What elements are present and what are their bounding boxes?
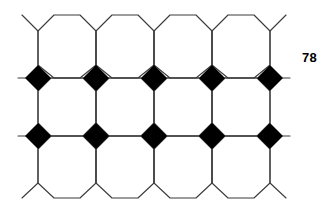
figure-container: 78 [0,0,336,216]
tiling-diagram [0,0,336,216]
figure-number-label: 78 [302,50,317,66]
diagram-background [0,0,336,216]
